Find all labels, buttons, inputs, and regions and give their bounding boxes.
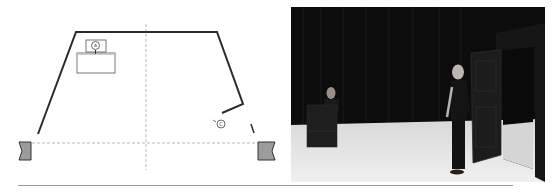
stage-photo: [291, 7, 545, 182]
door-jamb: [251, 124, 254, 133]
standing-person-shoes: [450, 170, 464, 175]
standing-person-torso: [451, 80, 467, 120]
bottom-divider: [18, 185, 513, 186]
standing-person-legs: [452, 119, 465, 169]
seated-person-head: [327, 87, 336, 99]
open-door: [471, 50, 501, 163]
set-walls: [38, 32, 243, 134]
marker-c-label: C: [219, 121, 223, 127]
stage-plan-diagram: A C: [0, 0, 285, 180]
standing-person-head: [452, 65, 464, 80]
wing-left-icon: [19, 142, 31, 160]
table: [77, 53, 115, 73]
wing-right-icon: [258, 142, 275, 160]
stage-photo-scene: [291, 7, 545, 182]
box-prop: [307, 105, 337, 147]
marker-c-pointer: [213, 120, 216, 122]
